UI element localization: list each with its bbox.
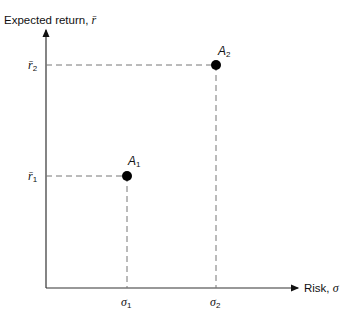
label-a1: A1 <box>128 155 140 169</box>
label-a1-name: A <box>128 154 136 168</box>
y-axis-label: Expected return, r̄ <box>4 14 96 27</box>
x-axis-label-symbol: σ <box>333 281 339 295</box>
label-a1-sub: 1 <box>136 160 140 169</box>
x-axis-label: Risk, σ <box>304 282 339 295</box>
tick-sigma1: σ1 <box>121 296 131 310</box>
x-axis-label-text: Risk, <box>304 282 333 294</box>
tick-r1-sub: 1 <box>33 175 37 184</box>
y-axis-label-text: Expected return, <box>4 14 92 26</box>
y-axis-label-symbol: r̄ <box>92 13 97 27</box>
tick-r2-sub: 2 <box>33 64 37 73</box>
tick-sigma1-sub: 1 <box>127 301 131 310</box>
tick-sigma2-sub: 2 <box>216 301 220 310</box>
label-a2: A2 <box>218 45 230 59</box>
label-a2-sub: 2 <box>226 50 230 59</box>
tick-r1: r̄1 <box>28 170 37 184</box>
point-a1 <box>122 171 132 181</box>
diagram-canvas <box>0 0 351 322</box>
tick-r2: r̄2 <box>28 59 37 73</box>
label-a2-name: A <box>218 44 226 58</box>
point-a2 <box>211 60 221 70</box>
tick-sigma2: σ2 <box>210 296 220 310</box>
